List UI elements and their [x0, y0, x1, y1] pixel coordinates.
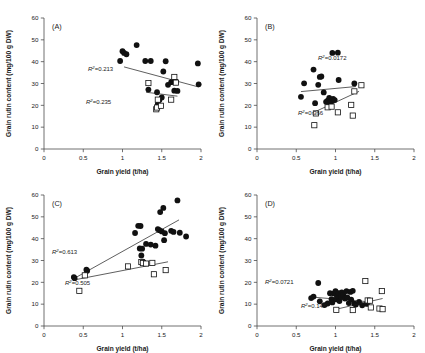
- data-point-open: [155, 97, 160, 102]
- data-point-filled: [351, 81, 357, 87]
- y-axis-title: Grain rutin content (mg/100 g DW): [218, 207, 226, 314]
- data-point-open: [150, 260, 155, 265]
- y-tick-label: 30: [32, 80, 39, 87]
- scatter-panel-c: 00.511.520102030405060Grain yield (t/ha)…: [0, 177, 212, 353]
- scatter-panel-d: 00.511.520102030405060Grain yield (t/ha)…: [213, 177, 425, 353]
- trend-line-filled-circles: [301, 87, 356, 92]
- scatter-panel-b: 00.511.520102030405060Grain yield (t/ha)…: [213, 0, 425, 176]
- data-point-open: [380, 307, 385, 312]
- data-point-open: [169, 97, 174, 102]
- r-squared-annotation: R2=0.505: [65, 279, 91, 286]
- scatter-plot-c: 00.511.520102030405060Grain yield (t/ha)…: [0, 177, 212, 353]
- data-point-open: [350, 307, 355, 312]
- x-tick-label: 0.5: [292, 154, 301, 161]
- y-tick-label: 60: [32, 191, 39, 198]
- x-tick-label: 1: [121, 154, 125, 161]
- data-point-open: [349, 102, 354, 107]
- r-squared-annotation: R2=0.366: [298, 109, 324, 116]
- r-squared-annotation: R2=0.235: [86, 98, 112, 105]
- data-point-filled: [332, 97, 338, 103]
- data-point-open: [359, 83, 364, 88]
- x-tick-label: 0: [255, 331, 259, 338]
- data-point-open: [363, 278, 368, 283]
- y-tick-label: 30: [245, 257, 252, 264]
- y-tick-label: 50: [32, 36, 39, 43]
- y-tick-label: 0: [35, 145, 39, 152]
- y-tick-label: 40: [32, 235, 39, 242]
- x-tick-label: 2: [412, 331, 416, 338]
- data-point-filled: [321, 90, 327, 96]
- panel-label: (B): [265, 22, 275, 31]
- y-tick-label: 50: [32, 213, 39, 220]
- data-point-open: [146, 80, 151, 85]
- data-point-filled: [153, 243, 159, 249]
- x-tick-label: 0: [42, 154, 46, 161]
- r-squared-annotation: R2=0.613: [52, 248, 78, 255]
- y-axis-title: Grain rutin content (mg/100 g DW): [218, 30, 226, 137]
- y-tick-label: 50: [245, 36, 252, 43]
- y-tick-label: 20: [32, 279, 39, 286]
- data-point-filled: [171, 229, 177, 235]
- x-tick-label: 0: [42, 331, 46, 338]
- data-point-filled: [148, 58, 154, 64]
- data-point-filled: [132, 230, 138, 236]
- data-point-filled: [175, 88, 181, 94]
- data-point-filled: [312, 100, 318, 106]
- data-point-filled: [162, 230, 168, 236]
- x-tick-label: 1: [334, 331, 338, 338]
- y-tick-label: 10: [245, 123, 252, 130]
- x-axis-title: Grain yield (t/ha): [96, 168, 148, 176]
- y-tick-label: 10: [32, 123, 39, 130]
- data-point-filled: [315, 82, 321, 88]
- data-point-filled: [117, 58, 123, 64]
- data-point-open: [335, 110, 340, 115]
- r-squared-annotation: R2=0.0721: [265, 278, 294, 285]
- x-tick-label: 1.5: [157, 154, 166, 161]
- x-axis-title: Grain yield (t/ha): [309, 168, 361, 176]
- y-tick-label: 50: [245, 213, 252, 220]
- data-point-open: [334, 307, 339, 312]
- scatter-plot-d: 00.511.520102030405060Grain yield (t/ha)…: [213, 177, 425, 353]
- data-point-open: [329, 104, 334, 109]
- y-axis-title: Grain rutin content (mg/100 g DW): [5, 30, 13, 137]
- scatter-plot-b: 00.511.520102030405060Grain yield (t/ha)…: [213, 0, 425, 176]
- data-point-filled: [142, 58, 148, 64]
- data-point-filled: [154, 89, 160, 95]
- data-point-filled: [175, 198, 181, 204]
- data-point-filled: [138, 253, 144, 259]
- series-open-squares: [73, 259, 168, 293]
- scatter-plot-a: 00.511.520102030405060Grain yield (t/ha)…: [0, 0, 212, 176]
- data-point-open: [379, 288, 384, 293]
- x-tick-label: 2: [199, 331, 203, 338]
- x-tick-label: 0.5: [292, 331, 301, 338]
- data-point-open: [77, 288, 82, 293]
- x-tick-label: 0.5: [79, 154, 88, 161]
- x-tick-label: 0.5: [79, 331, 88, 338]
- y-tick-label: 10: [245, 300, 252, 307]
- data-point-open: [125, 264, 130, 269]
- x-axis-title: Grain yield (t/ha): [96, 345, 148, 353]
- r-squared-annotation: R2=0.213: [88, 65, 114, 72]
- data-point-filled: [195, 61, 201, 67]
- x-tick-label: 2: [412, 154, 416, 161]
- data-point-filled: [161, 237, 167, 243]
- figure-container: 00.511.520102030405060Grain yield (t/ha)…: [0, 0, 425, 353]
- data-point-filled: [177, 230, 183, 236]
- x-tick-label: 2: [199, 154, 203, 161]
- data-point-filled: [160, 205, 166, 211]
- panel-label: (A): [52, 22, 62, 31]
- y-tick-label: 0: [248, 145, 252, 152]
- y-tick-label: 0: [35, 322, 39, 329]
- data-point-open: [368, 305, 373, 310]
- data-point-filled: [139, 246, 145, 252]
- y-tick-label: 20: [32, 102, 39, 109]
- data-point-filled: [163, 58, 169, 64]
- data-point-open: [151, 272, 156, 277]
- data-point-open: [172, 74, 177, 79]
- y-tick-label: 20: [245, 279, 252, 286]
- y-tick-label: 0: [248, 322, 252, 329]
- data-point-open: [163, 268, 168, 273]
- data-point-open: [352, 89, 357, 94]
- data-point-filled: [311, 67, 317, 73]
- x-tick-label: 1.5: [370, 331, 379, 338]
